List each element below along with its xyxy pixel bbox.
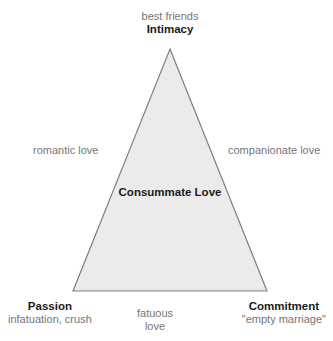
triangle-shape xyxy=(0,0,333,341)
passion-label: Passion xyxy=(8,300,92,313)
commitment-caption: "empty marriage" xyxy=(242,313,326,326)
commitment-label: Commitment xyxy=(242,300,326,313)
intimacy-caption: best friends xyxy=(142,10,199,23)
passion-caption: infatuation, crush xyxy=(8,313,92,326)
triangular-theory-of-love-diagram: best friends Intimacy Passion infatuatio… xyxy=(0,0,333,341)
vertex-intimacy: best friends Intimacy xyxy=(142,10,199,35)
intimacy-label: Intimacy xyxy=(142,23,199,36)
edge-label-companionate-love: companionate love xyxy=(228,144,320,157)
edge-label-romantic-love: romantic love xyxy=(33,144,98,157)
fatuous-love-line-2: love xyxy=(137,320,173,333)
vertex-passion: Passion infatuation, crush xyxy=(8,300,92,325)
vertex-commitment: Commitment "empty marriage" xyxy=(242,300,326,325)
fatuous-love-line-1: fatuous xyxy=(137,307,173,320)
love-triangle-polygon xyxy=(73,49,267,291)
center-label-consummate-love: Consummate Love xyxy=(119,186,222,199)
edge-label-fatuous-love: fatuous love xyxy=(137,307,173,332)
